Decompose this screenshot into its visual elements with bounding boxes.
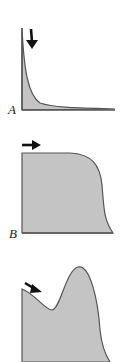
panel-label-b: B: [9, 226, 17, 241]
decay-curve-plot: A: [0, 0, 139, 125]
plateau-area: [22, 153, 113, 233]
panel-label-a: A: [7, 102, 16, 117]
plateau-curve-plot: B: [0, 120, 139, 245]
panel-a: A: [0, 0, 139, 125]
arrow-right-icon: [22, 140, 41, 150]
peak-curve-plot: [0, 240, 139, 362]
panel-b: B: [0, 120, 139, 245]
panel-c: [0, 240, 139, 362]
arrow-down-icon: [26, 29, 38, 49]
peak-area: [22, 267, 110, 362]
